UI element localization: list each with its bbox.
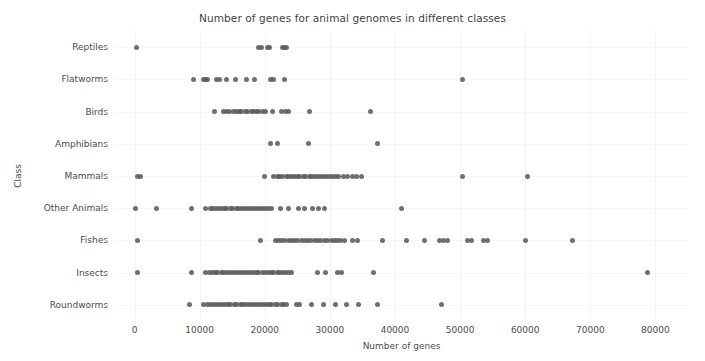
data-point	[189, 206, 194, 211]
data-point	[316, 206, 321, 211]
data-point	[322, 206, 327, 211]
data-point	[439, 302, 444, 307]
data-point	[445, 238, 450, 243]
y-tick-mark	[104, 273, 108, 274]
data-point	[368, 109, 373, 114]
y-gridline-fishes	[115, 240, 688, 241]
data-point	[135, 238, 140, 243]
data-point	[342, 238, 347, 243]
data-point	[339, 270, 344, 275]
data-point	[404, 238, 409, 243]
data-point	[134, 45, 139, 50]
plot-area	[115, 31, 688, 321]
data-point	[135, 270, 140, 275]
y-tick-label-amphibians: Amphibians	[55, 139, 108, 149]
data-point	[187, 302, 192, 307]
data-point	[262, 174, 267, 179]
y-tick-mark	[104, 79, 108, 80]
data-point	[350, 238, 355, 243]
y-axis-title: Class	[13, 164, 23, 188]
y-tick-mark	[104, 144, 108, 145]
data-point	[224, 77, 229, 82]
y-tick-mark	[104, 176, 108, 177]
data-point	[244, 77, 249, 82]
y-gridline-reptiles	[115, 47, 688, 48]
data-point	[233, 77, 238, 82]
data-point	[133, 206, 138, 211]
data-point	[297, 302, 302, 307]
data-point	[252, 77, 257, 82]
data-point	[380, 238, 385, 243]
y-tick-label-flatworms: Flatworms	[61, 74, 108, 84]
y-tick-label-mammals: Mammals	[64, 171, 108, 181]
y-gridline-amphibians	[115, 144, 688, 145]
x-tick-label-60000: 60000	[511, 325, 540, 335]
data-point	[289, 270, 294, 275]
data-point	[271, 77, 276, 82]
data-point	[359, 174, 364, 179]
x-tick-label-40000: 40000	[381, 325, 410, 335]
data-point	[267, 45, 272, 50]
data-point	[296, 206, 301, 211]
y-tick-label-reptiles: Reptiles	[72, 42, 108, 52]
data-point	[284, 45, 289, 50]
data-point	[307, 109, 312, 114]
data-point	[268, 141, 273, 146]
data-point	[525, 174, 530, 179]
scatter-chart-figure: Number of genes for animal genomes in di…	[0, 0, 705, 361]
data-point	[375, 302, 380, 307]
data-point	[270, 109, 275, 114]
x-tick-label-30000: 30000	[316, 325, 345, 335]
data-point	[422, 238, 427, 243]
y-tick-mark	[104, 47, 108, 48]
x-tick-label-0: 0	[132, 325, 138, 335]
data-point	[205, 77, 210, 82]
data-point	[306, 141, 311, 146]
x-tick-label-20000: 20000	[250, 325, 279, 335]
y-tick-label-roundworms: Roundworms	[50, 300, 108, 310]
data-point	[310, 206, 315, 211]
data-point	[371, 270, 376, 275]
y-tick-mark	[104, 112, 108, 113]
y-tick-mark	[104, 208, 108, 209]
y-gridline-insects	[115, 273, 688, 274]
data-point	[282, 77, 287, 82]
data-point	[269, 206, 274, 211]
data-point	[154, 206, 159, 211]
data-point	[263, 109, 268, 114]
x-axis-title: Number of genes	[115, 341, 688, 351]
y-gridline-birds	[115, 112, 688, 113]
data-point	[355, 238, 360, 243]
data-point	[191, 77, 196, 82]
data-point	[138, 174, 143, 179]
data-point	[344, 302, 349, 307]
data-point	[356, 302, 361, 307]
x-tick-label-80000: 80000	[641, 325, 670, 335]
y-tick-mark	[104, 305, 108, 306]
data-point	[523, 238, 528, 243]
y-gridline-mammals	[115, 176, 688, 177]
data-point	[258, 238, 263, 243]
x-axis-tick-labels: 0100002000030000400005000060000700008000…	[115, 325, 688, 341]
data-point	[570, 238, 575, 243]
data-point	[399, 206, 404, 211]
y-tick-label-other-animals: Other Animals	[44, 203, 108, 213]
data-point	[333, 302, 338, 307]
y-tick-mark	[104, 240, 108, 241]
data-point	[284, 302, 289, 307]
x-tick-label-10000: 10000	[185, 325, 214, 335]
data-point	[286, 206, 291, 211]
data-point	[217, 77, 222, 82]
data-point	[323, 270, 328, 275]
data-point	[645, 270, 650, 275]
data-point	[278, 206, 283, 211]
data-point	[460, 77, 465, 82]
data-point	[375, 141, 380, 146]
data-point	[469, 238, 474, 243]
chart-title: Number of genes for animal genomes in di…	[0, 12, 705, 24]
data-point	[189, 270, 194, 275]
data-point	[485, 238, 490, 243]
x-tick-label-70000: 70000	[576, 325, 605, 335]
data-point	[309, 302, 314, 307]
data-point	[315, 270, 320, 275]
